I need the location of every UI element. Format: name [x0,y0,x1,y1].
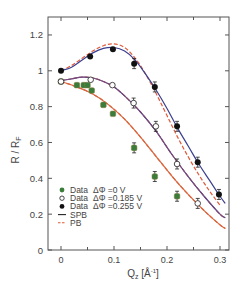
x-tick-label: 0 [58,255,63,265]
y-tick-label: 1.2 [30,29,43,40]
data-point-green [101,102,107,108]
y-tick-label: 0.6 [30,137,43,148]
y-tick-label: 0 [38,245,43,256]
data-point-open [131,100,137,106]
legend-param: ΔΦ =0.255 V [93,201,142,211]
x-tick-label: 0.1 [108,255,121,265]
x-axis-label: Qz [Å-1] [127,267,159,280]
data-point-black [87,53,93,59]
data-point-black [152,84,158,90]
green-dot-icon [60,188,65,193]
data-point-open [58,79,64,85]
tick-labels: 00.10.20.300.20.40.60.811.2 [30,29,226,265]
data-point-green [89,88,95,94]
legend: DataΔΦ =0 VDataΔΦ =0.185 VDataΔΦ =0.255 … [58,185,142,228]
y-axis-label: R / RF [10,136,22,163]
data-point-black [216,191,222,197]
black-dot-icon [60,204,65,209]
data-point-black [131,61,137,67]
data-point-black [195,159,201,165]
spb-curve [61,47,225,203]
data-point-green [152,174,158,180]
data-point-black [174,123,180,129]
y-tick-label: 1 [38,65,43,76]
data-point-black [58,68,64,74]
legend-label: PB [70,218,82,228]
y-tick-label: 0.8 [30,101,43,112]
data-point-green [74,82,80,88]
data-point-green [85,82,91,88]
data-point-open [88,77,94,83]
data-point-open [110,82,116,88]
data-point-open [195,201,201,207]
data-point-open [153,124,159,130]
open-circle-icon [60,196,64,200]
data-point-green [110,111,116,117]
legend-item: PB [58,218,82,228]
y-tick-label: 0.2 [30,209,43,220]
x-tick-label: 0.3 [214,255,227,265]
y-tick-label: 0.4 [30,173,43,184]
data-point-green [174,193,180,199]
data-point-open [174,161,180,167]
x-tick-label: 0.2 [161,255,174,265]
chart: 00.10.20.300.20.40.60.811.2 DataΔΦ =0 VD… [0,0,242,298]
data-point-green [131,145,137,151]
pb-curve [61,44,220,205]
data-point-black [110,46,116,52]
